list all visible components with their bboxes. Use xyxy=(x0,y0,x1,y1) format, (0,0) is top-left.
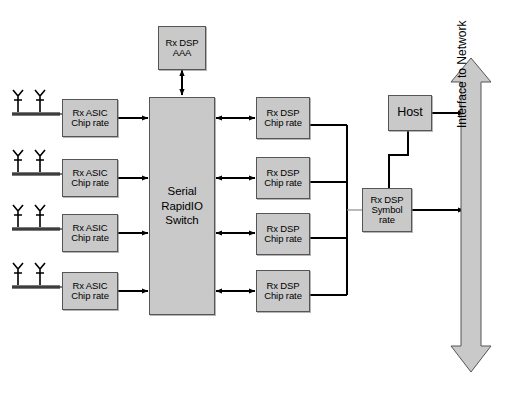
block-rx-dsp-chip-rate-2[interactable]: Rx DSP Chip rate xyxy=(256,157,310,199)
switch-line-1: Serial xyxy=(168,184,197,198)
switch-line-3: Switch xyxy=(165,213,198,227)
block-rx-dsp-chip-rate-3[interactable]: Rx DSP Chip rate xyxy=(256,213,310,255)
asic-3-line-2: Chip rate xyxy=(71,233,109,243)
block-serial-rapidio-switch[interactable]: Serial RapidIO Switch xyxy=(149,97,215,315)
dsp-2-line-2: Chip rate xyxy=(264,178,302,188)
dsp-3-line-2: Chip rate xyxy=(264,234,302,244)
dsp-output-bus xyxy=(309,125,347,295)
asic-2-line-2: Chip rate xyxy=(71,178,109,188)
block-rx-dsp-aaa[interactable]: Rx DSP AAA xyxy=(158,26,206,70)
network-arrow-label: Interface to Network xyxy=(455,0,469,128)
asic-1-line-2: Chip rate xyxy=(71,118,109,128)
antenna-group-3 xyxy=(13,205,45,227)
link-host-symbolrate xyxy=(389,131,408,190)
connections-layer xyxy=(0,0,509,400)
block-host[interactable]: Host xyxy=(388,95,432,131)
block-rx-asic-1[interactable]: Rx ASIC Chip rate xyxy=(62,99,118,137)
antenna-group-4 xyxy=(13,263,45,285)
switch-line-2: RapidIO xyxy=(161,199,203,213)
block-rx-asic-2[interactable]: Rx ASIC Chip rate xyxy=(62,159,118,197)
antenna-group-1 xyxy=(13,90,45,112)
block-rx-dsp-chip-rate-1[interactable]: Rx DSP Chip rate xyxy=(256,97,310,139)
block-rx-dsp-symbol-rate[interactable]: Rx DSP Symbol rate xyxy=(362,188,412,232)
dsp-4-line-2: Chip rate xyxy=(264,291,302,301)
dsp-1-line-2: Chip rate xyxy=(264,118,302,128)
host-label: Host xyxy=(397,106,422,120)
asic-4-line-2: Chip rate xyxy=(71,291,109,301)
symbol-line-3: rate xyxy=(379,215,395,225)
antenna-group-2 xyxy=(13,150,45,172)
block-rx-asic-3[interactable]: Rx ASIC Chip rate xyxy=(62,214,118,252)
block-rx-dsp-chip-rate-4[interactable]: Rx DSP Chip rate xyxy=(256,270,310,312)
block-rx-asic-4[interactable]: Rx ASIC Chip rate xyxy=(62,272,118,310)
figure-canvas: Rx DSP AAA Rx ASIC Chip rate Rx ASIC Chi… xyxy=(0,0,509,400)
aaa-line-2: AAA xyxy=(173,48,192,58)
